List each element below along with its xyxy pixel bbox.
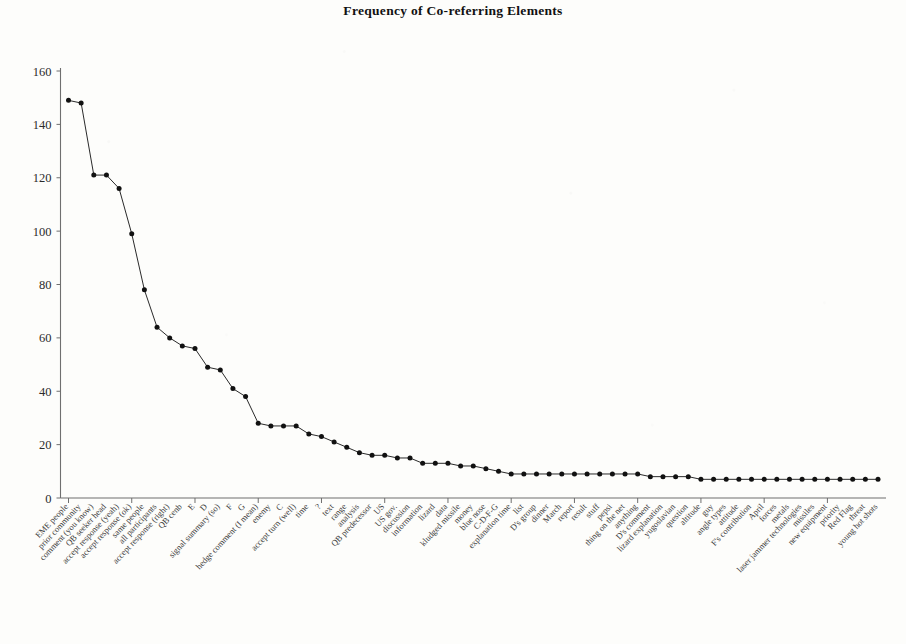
data-point [509,471,514,476]
data-point [471,463,476,468]
data-point [736,477,741,482]
data-point [559,471,564,476]
y-tick-label: 20 [39,438,52,452]
data-point [496,469,501,474]
data-point [876,477,881,482]
x-axis [61,498,887,503]
data-point [91,173,96,178]
y-tick-label: 100 [33,225,52,239]
data-point [79,101,84,106]
data-point [117,186,122,191]
data-point [104,173,109,178]
data-point [433,461,438,466]
data-point [167,335,172,340]
data-point [382,453,387,458]
data-point [585,471,590,476]
y-tick-label: 40 [39,385,52,399]
y-tick-label: 120 [33,171,52,185]
x-category-label: time [293,501,311,519]
data-point [800,477,805,482]
data-point [749,477,754,482]
x-category-label: F [224,501,235,511]
y-tick-label: 80 [39,278,52,292]
x-category-label: E [186,502,197,513]
data-point [711,477,716,482]
data-point [521,471,526,476]
data-point [774,477,779,482]
data-point [281,423,286,428]
data-point [572,471,577,476]
data-point [724,477,729,482]
data-point [850,477,855,482]
data-series [66,98,881,482]
data-point [623,471,628,476]
data-point [698,477,703,482]
y-axis: 020406080100120140160 [33,65,61,506]
data-point [129,231,134,236]
data-point [534,471,539,476]
data-point [458,463,463,468]
data-point [673,474,678,479]
data-point [142,287,147,292]
y-tick-label: 60 [39,331,52,345]
chart-canvas: 020406080100120140160 EME peopleprior co… [0,0,906,644]
data-point [357,450,362,455]
data-point [218,367,223,372]
data-point [306,431,311,436]
data-point [294,423,299,428]
data-point [660,474,665,479]
data-point [445,461,450,466]
data-point [230,386,235,391]
data-point [344,445,349,450]
data-point [825,477,830,482]
data-point [863,477,868,482]
data-point [610,471,615,476]
data-point [838,477,843,482]
data-point [332,439,337,444]
data-point [686,474,691,479]
data-point [370,453,375,458]
data-point [762,477,767,482]
data-point [483,466,488,471]
data-point [547,471,552,476]
data-point [268,423,273,428]
data-point [648,474,653,479]
data-point [319,434,324,439]
data-point [395,455,400,460]
data-point [635,471,640,476]
data-point [420,461,425,466]
data-point [597,471,602,476]
data-point [408,455,413,460]
data-point [180,343,185,348]
data-point [66,98,71,103]
y-tick-label: 0 [45,492,51,506]
y-tick-label: 140 [33,118,52,132]
data-point [787,477,792,482]
data-point [205,365,210,370]
data-point [256,421,261,426]
y-tick-label: 160 [33,65,52,79]
data-point [192,346,197,351]
data-point [155,325,160,330]
data-point [243,394,248,399]
line-chart: 020406080100120140160 EME peopleprior co… [0,0,906,644]
data-point [812,477,817,482]
x-axis-labels: EME peopleprior communitycomment (you kn… [33,501,880,574]
